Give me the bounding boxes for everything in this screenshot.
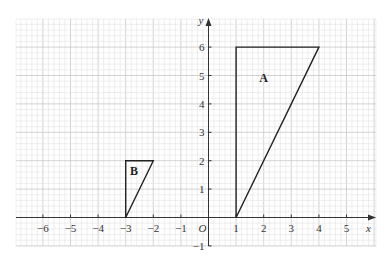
y-tick-label: 4 [199,98,205,110]
coordinate-grid: −6−5−4−3−2−112345−1123456 AB x y O [0,0,386,261]
x-tick-label: −2 [147,222,159,234]
x-tick-label: 2 [261,222,267,234]
shape-label-b: B [130,164,138,178]
grid-lines [16,19,376,246]
shape-label-a: A [259,71,268,85]
x-tick-label: −1 [175,222,187,234]
x-tick-label: 5 [344,222,350,234]
origin-label: O [199,222,207,234]
y-tick-label: 6 [199,41,205,53]
x-tick-label: 3 [289,222,295,234]
x-tick-label: 4 [316,222,322,234]
y-tick-label: −1 [193,240,205,252]
y-tick-label: 3 [199,126,205,138]
y-tick-label: 2 [199,155,205,167]
x-axis-label: x [365,222,371,234]
y-tick-label: 5 [199,70,205,82]
x-tick-label: −3 [120,222,132,234]
x-tick-label: −6 [37,222,49,234]
tick-labels: −6−5−4−3−2−112345−1123456 [37,41,350,252]
x-axis-arrow-icon [368,215,376,221]
y-tick-label: 1 [199,183,205,195]
x-tick-label: −4 [92,222,104,234]
y-axis-label: y [198,14,204,26]
x-tick-label: 1 [233,222,239,234]
x-tick-label: −5 [65,222,77,234]
